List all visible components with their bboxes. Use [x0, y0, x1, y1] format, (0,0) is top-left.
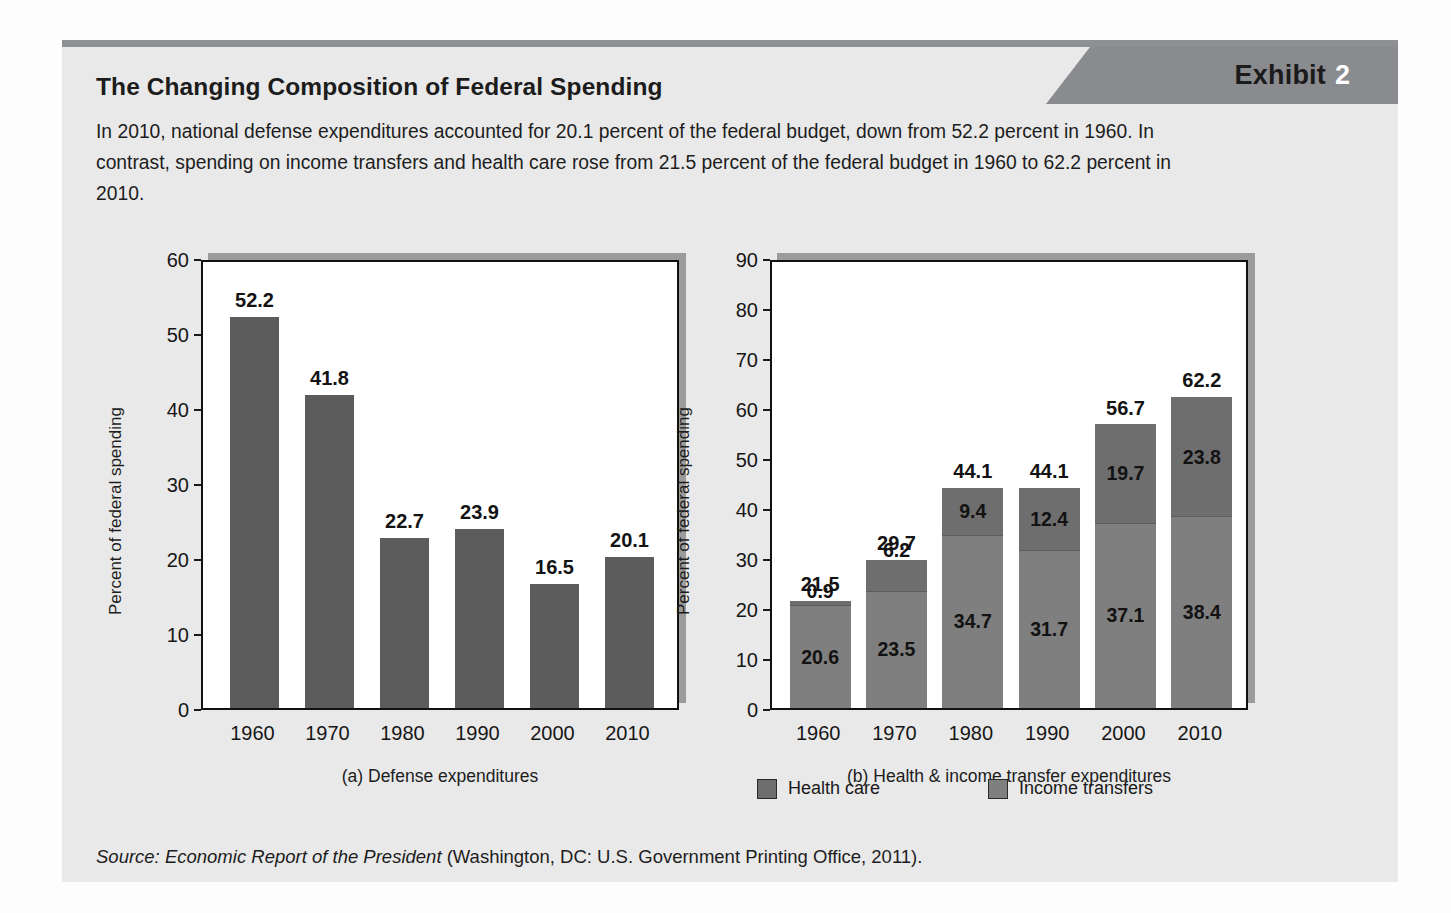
bar-segment-label: 34.7 — [942, 610, 1003, 633]
bar-segment-label: 38.4 — [1171, 601, 1232, 624]
bar-segment-label: 23.8 — [1171, 446, 1232, 469]
source-title: Economic Report of the President — [165, 846, 442, 867]
y-tick-mark — [763, 509, 770, 511]
chart-b-legend: Health care Income transfers — [757, 778, 1153, 799]
bar-2010: 38.423.8 — [1171, 397, 1232, 708]
y-tick-label: 70 — [736, 349, 758, 372]
y-tick-label: 60 — [736, 399, 758, 422]
bar-segment-label: 20.6 — [790, 646, 851, 669]
exhibit-panel: Exhibit 2 The Changing Composition of Fe… — [62, 40, 1398, 882]
bar-total-label: 29.7 — [866, 532, 927, 555]
bar-total-label: 44.1 — [942, 460, 1003, 483]
y-tick-mark — [763, 659, 770, 661]
x-tick-label: 2000 — [515, 722, 590, 745]
bar-segment-label: 9.4 — [942, 500, 1003, 523]
y-tick-mark — [194, 559, 201, 561]
y-tick-mark — [194, 259, 201, 261]
y-tick-mark — [763, 709, 770, 711]
y-tick-mark — [194, 334, 201, 336]
y-tick-label: 30 — [167, 474, 189, 497]
bar-total-label: 22.7 — [380, 510, 430, 533]
bar-total-label: 62.2 — [1171, 369, 1232, 392]
bar-1970: 23.56.2 — [866, 560, 927, 709]
y-tick-label: 10 — [167, 624, 189, 647]
y-tick-mark — [763, 309, 770, 311]
x-tick-label: 1980 — [365, 722, 440, 745]
chart-a-caption: (a) Defense expenditures — [201, 766, 679, 787]
bar-1980: 34.79.4 — [942, 488, 1003, 709]
y-tick-mark — [763, 459, 770, 461]
bar-total-label: 44.1 — [1019, 460, 1080, 483]
bar-total-label: 52.2 — [230, 289, 280, 312]
source-rest: (Washington, DC: U.S. Government Printin… — [442, 846, 923, 867]
y-tick-label: 20 — [167, 549, 189, 572]
legend-swatch-income-transfers — [988, 779, 1008, 799]
chart-health-income-transfer-expenditures: Percent of federal spending 010203040506… — [662, 215, 1262, 835]
exhibit-banner-word: Exhibit — [1235, 60, 1326, 91]
chart-a-y-axis-ticks: 0102030405060 — [96, 215, 201, 710]
y-tick-label: 30 — [736, 549, 758, 572]
source-note: Source: Economic Report of the President… — [96, 846, 922, 868]
bar-2000 — [530, 584, 580, 708]
x-tick-label: 1970 — [856, 722, 932, 745]
y-tick-label: 40 — [736, 499, 758, 522]
bar-1960: 20.60.9 — [790, 601, 851, 709]
exhibit-title: The Changing Composition of Federal Spen… — [96, 73, 663, 101]
y-tick-mark — [194, 709, 201, 711]
legend-item-health-care: Health care — [757, 778, 880, 799]
y-tick-mark — [763, 609, 770, 611]
legend-item-income-transfers: Income transfers — [988, 778, 1153, 799]
exhibit-banner-number: 2 — [1335, 60, 1350, 91]
bar-segment-label: 19.7 — [1095, 462, 1156, 485]
y-tick-mark — [194, 634, 201, 636]
legend-swatch-health-care — [757, 779, 777, 799]
y-tick-mark — [763, 409, 770, 411]
bar-segment-label: 23.5 — [866, 638, 927, 661]
y-tick-label: 40 — [167, 399, 189, 422]
y-tick-label: 0 — [747, 699, 758, 722]
bar-1990: 31.712.4 — [1019, 488, 1080, 709]
bar-total-label: 23.9 — [455, 501, 505, 524]
legend-label-health-care: Health care — [788, 778, 880, 799]
bar-total-label: 56.7 — [1095, 397, 1156, 420]
y-tick-label: 10 — [736, 649, 758, 672]
bar-1990 — [455, 529, 505, 708]
chart-b-plot-area: 20.60.921.523.56.229.734.79.444.131.712.… — [770, 260, 1248, 710]
x-tick-label: 2010 — [1162, 722, 1238, 745]
x-tick-label: 2010 — [590, 722, 665, 745]
legend-label-income-transfers: Income transfers — [1019, 778, 1153, 799]
y-tick-mark — [763, 359, 770, 361]
bar-segment-label: 12.4 — [1019, 508, 1080, 531]
x-tick-label: 1970 — [290, 722, 365, 745]
y-tick-label: 80 — [736, 299, 758, 322]
chart-b-y-axis-ticks: 0102030405060708090 — [662, 215, 770, 710]
charts-container: Percent of federal spending 010203040506… — [62, 215, 1398, 835]
bar-total-label: 16.5 — [530, 556, 580, 579]
y-tick-label: 20 — [736, 599, 758, 622]
x-tick-label: 2000 — [1085, 722, 1161, 745]
bar-1980 — [380, 538, 430, 708]
bar-1960 — [230, 317, 280, 709]
y-tick-label: 90 — [736, 249, 758, 272]
x-tick-label: 1960 — [215, 722, 290, 745]
exhibit-description: In 2010, national defense expenditures a… — [96, 116, 1206, 209]
y-tick-mark — [763, 559, 770, 561]
y-tick-mark — [194, 409, 201, 411]
panel-top-bar — [62, 40, 1398, 47]
y-tick-mark — [194, 484, 201, 486]
chart-a-plot-area: 52.241.822.723.916.520.1 — [201, 260, 679, 710]
bar-total-label: 20.1 — [605, 529, 655, 552]
y-tick-label: 0 — [178, 699, 189, 722]
bar-1970 — [305, 395, 355, 709]
exhibit-banner: Exhibit 2 — [1046, 47, 1398, 104]
bar-segment-health-care — [866, 560, 927, 591]
chart-defense-expenditures: Percent of federal spending 010203040506… — [96, 215, 696, 835]
bar-2010 — [605, 557, 655, 708]
y-tick-mark — [763, 259, 770, 261]
x-tick-label: 1960 — [780, 722, 856, 745]
y-tick-label: 50 — [736, 449, 758, 472]
y-tick-label: 50 — [167, 324, 189, 347]
bar-segment-label: 37.1 — [1095, 604, 1156, 627]
x-tick-label: 1990 — [440, 722, 515, 745]
bar-2000: 37.119.7 — [1095, 425, 1156, 709]
